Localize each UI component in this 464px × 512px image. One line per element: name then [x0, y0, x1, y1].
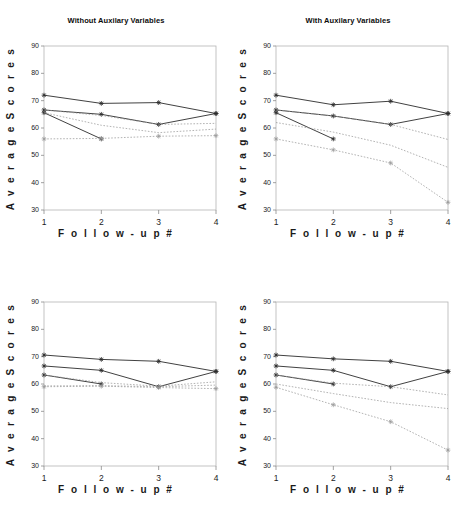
data-point-marker: [99, 136, 104, 141]
plot-area-top-right: 304050607080901234: [232, 0, 464, 256]
data-point-marker: [214, 369, 219, 374]
data-point-marker: [156, 100, 161, 105]
data-point-marker: [274, 110, 279, 115]
x-tick-label: 1: [274, 217, 279, 227]
series-line: [44, 386, 216, 388]
y-tick-label: 70: [31, 97, 39, 104]
x-tick-label: 3: [156, 217, 161, 227]
data-point-marker: [274, 364, 279, 369]
series-line: [276, 366, 448, 387]
data-point-marker: [99, 368, 104, 373]
y-tick-label: 40: [31, 179, 39, 186]
data-point-marker: [42, 137, 47, 142]
y-tick-label: 70: [263, 97, 271, 104]
y-tick-label: 70: [263, 353, 271, 360]
data-point-marker: [42, 384, 47, 389]
y-tick-label: 50: [263, 151, 271, 158]
data-point-marker: [214, 111, 219, 116]
data-point-marker: [274, 137, 279, 142]
series-line: [44, 375, 216, 386]
panel-bottom-right: A v e r a g e S c o r e s 30405060708090…: [232, 256, 464, 512]
data-point-marker: [446, 111, 451, 116]
data-point-marker: [388, 161, 393, 166]
series-line: [276, 139, 448, 202]
series-line: [276, 113, 333, 139]
panel-top-right: With Auxilary Variables A v e r a g e S …: [232, 0, 464, 256]
data-point-marker: [99, 112, 104, 117]
x-tick-label: 4: [214, 473, 219, 483]
data-point-marker: [214, 386, 219, 391]
y-tick-label: 30: [263, 462, 271, 469]
x-tick-label: 4: [446, 217, 451, 227]
data-point-marker: [99, 357, 104, 362]
x-tick-label: 3: [388, 473, 393, 483]
series-line: [44, 113, 101, 139]
series-line: [276, 384, 448, 409]
y-tick-label: 40: [263, 435, 271, 442]
y-tick-label: 90: [263, 298, 271, 305]
data-point-marker: [274, 93, 279, 98]
series-line: [44, 366, 216, 387]
plot-frame: [44, 46, 216, 210]
data-point-marker: [331, 147, 336, 152]
data-point-marker: [42, 364, 47, 369]
data-point-marker: [42, 353, 47, 358]
x-axis-label: F o l l o w - u p #: [0, 228, 232, 239]
data-point-marker: [331, 137, 336, 142]
figure-canvas: Without Auxilary Variables A v e r a g e…: [0, 0, 464, 512]
y-tick-label: 90: [263, 42, 271, 49]
series-line: [44, 355, 216, 371]
data-point-marker: [388, 99, 393, 104]
y-tick-label: 50: [31, 151, 39, 158]
panel-bottom-left: A v e r a g e S c o r e s 30405060708090…: [0, 256, 232, 512]
data-point-marker: [214, 133, 219, 138]
y-tick-label: 90: [31, 42, 39, 49]
series-line: [44, 136, 216, 139]
data-point-marker: [446, 448, 451, 453]
plot-area-bottom-left: 304050607080901234: [0, 256, 232, 512]
series-line: [276, 110, 448, 124]
x-axis-label: F o l l o w - u p #: [0, 484, 232, 495]
series-line: [44, 375, 101, 384]
y-tick-label: 50: [263, 407, 271, 414]
x-tick-label: 2: [99, 473, 104, 483]
x-tick-label: 2: [331, 217, 336, 227]
x-tick-label: 2: [331, 473, 336, 483]
y-tick-label: 50: [31, 407, 39, 414]
series-line: [276, 95, 448, 113]
series-line: [44, 113, 216, 133]
y-tick-label: 80: [263, 69, 271, 76]
plot-frame: [276, 302, 448, 466]
x-axis-label: F o l l o w - u p #: [232, 228, 464, 239]
series-line: [44, 95, 216, 113]
series-line: [276, 387, 448, 450]
series-line: [44, 110, 216, 124]
x-tick-label: 1: [274, 473, 279, 483]
data-point-marker: [156, 385, 161, 390]
data-point-marker: [42, 93, 47, 98]
x-tick-label: 3: [156, 473, 161, 483]
y-tick-label: 60: [31, 124, 39, 131]
plot-area-top-left: 304050607080901234: [0, 0, 232, 256]
x-tick-label: 4: [214, 217, 219, 227]
y-tick-label: 80: [31, 69, 39, 76]
data-point-marker: [331, 102, 336, 107]
data-point-marker: [274, 353, 279, 358]
data-point-marker: [156, 134, 161, 139]
y-tick-label: 40: [31, 435, 39, 442]
x-tick-label: 4: [446, 473, 451, 483]
data-point-marker: [331, 356, 336, 361]
series-line: [276, 355, 448, 371]
y-tick-label: 90: [31, 298, 39, 305]
data-point-marker: [446, 200, 451, 205]
y-tick-label: 70: [31, 353, 39, 360]
data-point-marker: [331, 382, 336, 387]
data-point-marker: [446, 369, 451, 374]
y-tick-label: 60: [263, 124, 271, 131]
plot-area-bottom-right: 304050607080901234: [232, 256, 464, 512]
y-tick-label: 30: [31, 462, 39, 469]
y-tick-label: 60: [31, 380, 39, 387]
x-tick-label: 3: [388, 217, 393, 227]
data-point-marker: [156, 359, 161, 364]
y-tick-label: 30: [263, 206, 271, 213]
